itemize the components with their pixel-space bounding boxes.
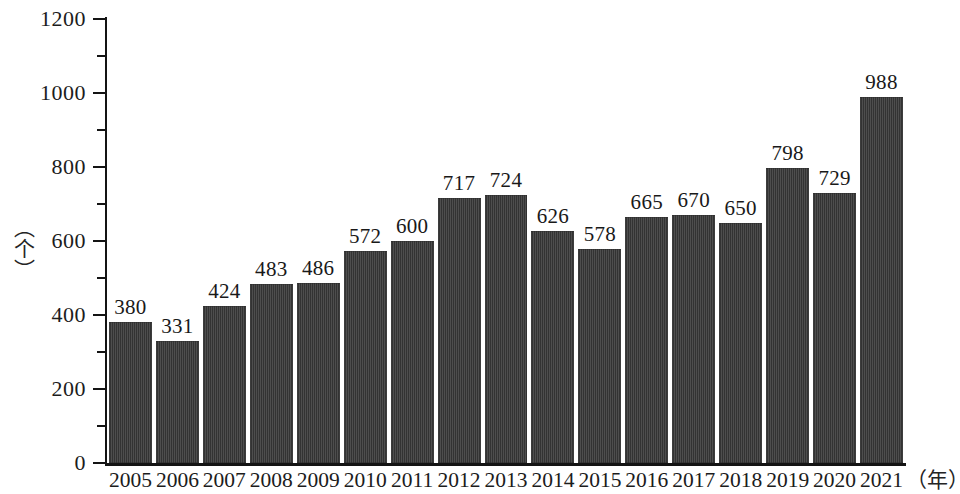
y-axis-tick-major: [93, 240, 106, 242]
bar: [672, 215, 715, 463]
bar-value-label: 483: [255, 259, 287, 280]
bar-value-label: 380: [114, 297, 146, 318]
y-axis-tick-label: 200: [0, 378, 86, 400]
bar-value-label: 424: [208, 281, 240, 302]
bar-value-label: 331: [161, 316, 193, 337]
bar-group: 988: [860, 19, 903, 463]
y-axis-tick-label: 0: [0, 452, 86, 474]
y-axis-tick-major: [93, 166, 106, 168]
bar-value-label: 600: [396, 216, 428, 237]
bar: [485, 195, 528, 463]
bar: [531, 231, 574, 463]
y-axis-tick-minor: [97, 351, 106, 353]
bar: [250, 284, 293, 463]
bar-value-label: 650: [724, 198, 756, 219]
bar-group: 486: [297, 19, 340, 463]
bar-group: 380: [109, 19, 152, 463]
bar-value-label: 670: [678, 190, 710, 211]
bar-value-label: 578: [584, 224, 616, 245]
bar-group: 717: [438, 19, 481, 463]
bar: [438, 198, 481, 463]
bar: [109, 322, 152, 463]
bar: [766, 168, 809, 463]
bar-group: 626: [531, 19, 574, 463]
y-axis-tick-major: [93, 92, 106, 94]
bar-group: 670: [672, 19, 715, 463]
bar: [860, 97, 903, 463]
bar: [156, 341, 199, 463]
bar-group: 798: [766, 19, 809, 463]
y-axis-tick-minor: [97, 55, 106, 57]
bar: [391, 241, 434, 463]
y-axis-tick-major: [93, 314, 106, 316]
bar-group: 483: [250, 19, 293, 463]
bar: [719, 223, 762, 464]
bar-value-label: 988: [865, 72, 897, 93]
bar-group: 724: [485, 19, 528, 463]
bar: [813, 193, 856, 463]
bar: [344, 251, 387, 463]
y-axis-tick-minor: [97, 425, 106, 427]
y-axis-tick-label: 1200: [0, 8, 86, 30]
bar-group: 572: [344, 19, 387, 463]
x-axis-tick-label: 2021: [852, 468, 912, 492]
bar-value-label: 572: [349, 226, 381, 247]
bar-value-label: 486: [302, 258, 334, 279]
bar-group: 665: [625, 19, 668, 463]
bar-value-label: 626: [537, 206, 569, 227]
y-axis-tick-major: [93, 388, 106, 390]
bar-group: 729: [813, 19, 856, 463]
bar-value-label: 717: [443, 173, 475, 194]
bar: [625, 217, 668, 463]
y-axis-tick-label: 600: [0, 230, 86, 252]
plot-area: 3803314244834865726007177246265786656706…: [107, 19, 905, 463]
y-axis-tick-minor: [97, 203, 106, 205]
bar-value-label: 665: [631, 192, 663, 213]
bar-group: 650: [719, 19, 762, 463]
bar-group: 424: [203, 19, 246, 463]
bar: [297, 283, 340, 463]
bar: [578, 249, 621, 463]
bar-group: 578: [578, 19, 621, 463]
y-axis-tick-label: 1000: [0, 82, 86, 104]
bar-group: 600: [391, 19, 434, 463]
bar-group: 331: [156, 19, 199, 463]
y-axis-tick-minor: [97, 129, 106, 131]
x-axis-unit-label: （年）: [906, 468, 960, 492]
y-axis-tick-label: 800: [0, 156, 86, 178]
y-axis-tick-minor: [97, 277, 106, 279]
bar-value-label: 729: [818, 168, 850, 189]
bar-value-label: 798: [771, 143, 803, 164]
bar: [203, 306, 246, 463]
y-axis-tick-major: [93, 18, 106, 20]
y-axis-tick-label: 400: [0, 304, 86, 326]
x-axis-line: [105, 463, 906, 466]
bar-value-label: 724: [490, 170, 522, 191]
